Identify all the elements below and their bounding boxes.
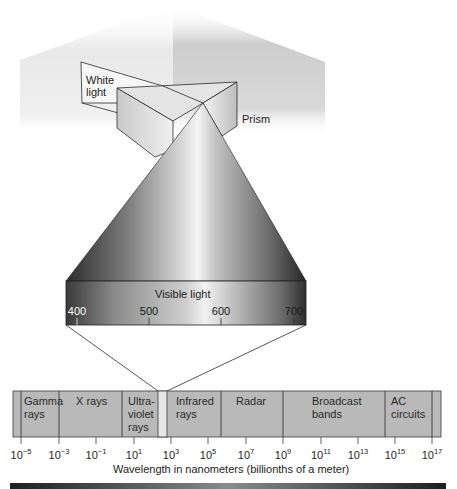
wavelength-tick-1e17: 1017 (422, 447, 443, 461)
band-label-radar: Radar (236, 395, 266, 408)
wavelength-tick-1e11: 1011 (311, 447, 331, 461)
prism-label: Prism (242, 113, 270, 125)
band-label-ac-circuits: AC circuits (391, 395, 425, 421)
em-spectrum-diagram: White light Prism Visible light 400 500 … (0, 0, 457, 489)
zoom-line-right (167, 325, 306, 391)
wavelength-tick-1e-3: 10−3 (49, 447, 70, 461)
zoom-line-left (66, 325, 158, 391)
wavelength-tick-marks (21, 437, 432, 444)
band-label-infrared: Infrared rays (176, 395, 214, 421)
visible-band-strip (158, 391, 167, 437)
wavelength-tick-1e1: 101 (126, 447, 142, 461)
white-light-label: White light (86, 74, 114, 98)
visible-tick-600: 600 (212, 305, 230, 317)
wavelength-tick-1e3: 103 (163, 447, 179, 461)
visible-tick-700: 700 (285, 305, 303, 317)
axis-title: Wavelength in nanometers (billionths of … (113, 463, 349, 475)
band-label-broadcast: Broadcast bands (312, 395, 362, 421)
wavelength-tick-1e13: 1013 (348, 447, 369, 461)
wavelength-tick-1e5: 105 (200, 447, 216, 461)
wavelength-tick-1e-1: 10−1 (86, 447, 107, 461)
wavelength-tick-1e9: 109 (275, 447, 291, 461)
wavelength-tick-1e7: 107 (238, 447, 254, 461)
wavelength-tick-1e-5: 10−5 (11, 447, 32, 461)
wavelength-tick-1e15: 1015 (385, 447, 406, 461)
diagram-canvas (0, 0, 457, 489)
band-label-gamma: Gamma rays (24, 395, 63, 421)
band-label-x-rays: X rays (76, 395, 107, 408)
visible-tick-400: 400 (68, 305, 86, 317)
band-label-ultraviolet: Ultra- violet rays (128, 395, 155, 434)
visible-light-label: Visible light (155, 288, 210, 300)
visible-tick-500: 500 (140, 305, 158, 317)
footer-band (10, 483, 446, 489)
